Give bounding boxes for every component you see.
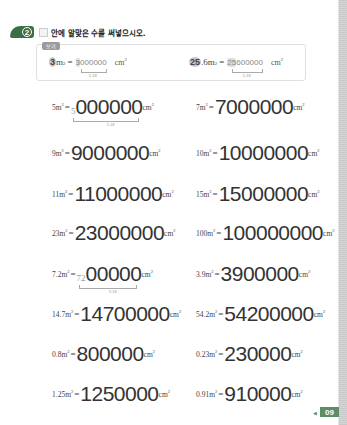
example-lhs-value: 3	[49, 57, 56, 67]
answer-input[interactable]: 800000	[77, 343, 144, 364]
unit-text: cm	[141, 270, 150, 279]
problem-lhs: 7m2	[196, 102, 208, 112]
unit-text: cm	[308, 189, 317, 198]
problem-unit: cm2	[299, 269, 310, 279]
answer-input[interactable]: 14700000	[80, 303, 169, 324]
lhs-text: 0.8m	[52, 349, 67, 358]
problem-lhs: 5m2	[52, 102, 64, 112]
problem-lhs: 14.7m2	[52, 309, 73, 319]
page-number: 09	[320, 407, 339, 417]
problem-header: 2 안에 알맞은 수를 써넣으시오.	[10, 25, 146, 39]
answer-input[interactable]: 15000000	[219, 183, 308, 204]
unit-exp: 2	[173, 228, 175, 233]
problem-number: 2	[22, 27, 32, 37]
hint-bracket	[73, 118, 139, 122]
equals-sign: =	[214, 269, 219, 279]
unit-exp: 2	[125, 57, 128, 62]
example-unit: cm2	[271, 57, 283, 67]
unit-exp: 2	[317, 148, 319, 153]
lhs-exp: 2	[215, 389, 217, 394]
hint-text: 5.18	[107, 122, 115, 127]
problem-unit: cm2	[149, 148, 160, 158]
equals-sign: =	[68, 57, 73, 67]
problem-unit: cm2	[291, 349, 302, 359]
problem-12: 54.2m2 = 54200000 cm2	[196, 303, 325, 324]
example-lhs-value: 25	[189, 57, 201, 67]
example-answer: 3000000 5.18	[76, 58, 107, 67]
answer-input[interactable]: 1250000	[80, 383, 158, 404]
instruction-text: 안에 알맞은 수를 써넣으시오.	[51, 27, 146, 38]
problem-unit: cm2	[323, 228, 334, 238]
lhs-text: 15m	[196, 189, 209, 198]
lhs-exp: 2	[215, 349, 217, 354]
answer-with-hint: 5000000 5.18	[71, 96, 143, 118]
problem-lhs: 0.8m2	[52, 349, 69, 359]
unit-text: cm	[314, 309, 323, 318]
lhs-exp: 2	[62, 148, 64, 153]
unit-text: cm	[323, 228, 332, 237]
problem-lhs: 3.9m2	[196, 269, 213, 279]
answer-input[interactable]: 230000	[224, 343, 291, 364]
unit-exp: 2	[152, 102, 154, 107]
unit-exp: 2	[308, 269, 310, 274]
problem-lhs: 11m2	[52, 189, 67, 199]
unit-exp: 2	[281, 57, 284, 62]
problem-unit: cm2	[291, 389, 302, 399]
unit-exp: 2	[171, 189, 173, 194]
equals-sign: =	[70, 269, 75, 279]
equals-sign: =	[65, 148, 70, 158]
page-binding-strip	[339, 0, 347, 425]
example-answer-first: 25	[227, 58, 236, 67]
lhs-text: 3.9m	[196, 269, 211, 278]
lhs-exp: 2	[71, 309, 73, 314]
answer-input[interactable]: 54200000	[224, 303, 313, 324]
equals-sign: =	[65, 102, 70, 112]
answer-input[interactable]: 7000000	[215, 96, 293, 117]
hint-bracket	[79, 285, 138, 289]
unit-text: cm	[291, 349, 300, 358]
lhs-text: 1.25m	[52, 389, 71, 398]
lhs-exp: 2	[215, 309, 217, 314]
example-item-2: 25 .6 m2 = 25600000 5.18 cm2	[189, 57, 283, 67]
unit-text: cm	[149, 148, 158, 157]
problem-lhs: 9m2	[52, 148, 64, 158]
equals-sign: =	[68, 189, 73, 199]
problem-lhs: 10m2	[196, 148, 212, 158]
example-answer-rest: 600000	[236, 58, 263, 67]
answer-input[interactable]: 100000000	[222, 222, 323, 243]
blank-box-icon	[39, 28, 48, 37]
answer-input[interactable]: 9000000	[71, 142, 149, 163]
example-lhs-unit: m	[208, 57, 215, 67]
equals-sign: =	[213, 148, 218, 158]
answer-input[interactable]: 11000000	[74, 183, 162, 204]
unit-exp: 2	[158, 148, 160, 153]
unit-exp: 2	[168, 389, 170, 394]
lhs-text: 54.2m	[196, 309, 215, 318]
answer-input[interactable]: 10000000	[219, 142, 308, 163]
problem-unit: cm2	[170, 309, 181, 319]
problem-lhs: 0.91m2	[196, 389, 217, 399]
lhs-text: 0.91m	[196, 389, 215, 398]
unit-exp: 2	[179, 309, 181, 314]
lhs-text: 100m	[196, 228, 213, 237]
equals-sign: =	[70, 349, 75, 359]
unit-text: cm	[144, 349, 153, 358]
hint-text: 5.18	[243, 73, 251, 78]
problem-unit: cm2	[308, 189, 319, 199]
example-lhs-unit: m	[56, 57, 63, 67]
answer-input[interactable]: 910000	[224, 383, 291, 404]
problem-lhs: 15m2	[196, 189, 212, 199]
example-tag: 보기	[42, 42, 60, 50]
hint-text: 5.18	[89, 73, 97, 78]
answer-input[interactable]: 00000	[86, 262, 142, 285]
problem-unit: cm2	[143, 102, 154, 112]
problem-3: 9m2 = 9000000 cm2	[52, 142, 161, 163]
problem-unit: cm2	[164, 228, 175, 238]
problem-lhs: 23m2	[52, 228, 68, 238]
answer-input[interactable]: 000000	[75, 95, 142, 118]
answer-input[interactable]: 23000000	[75, 222, 164, 243]
answer-input[interactable]: 3900000	[221, 263, 299, 284]
problem-8: 100m2 = 100000000 cm2	[196, 222, 334, 243]
problem-lhs: 54.2m2	[196, 309, 217, 319]
unit-text: cm	[170, 309, 179, 318]
